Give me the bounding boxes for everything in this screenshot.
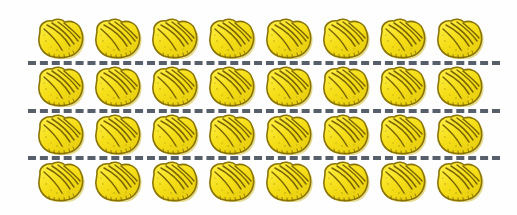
shell-4-5[interactable]	[258, 159, 315, 203]
scallop-shell-icon	[432, 17, 484, 59]
shell-4-7[interactable]	[372, 159, 429, 203]
shell-3-5[interactable]	[258, 112, 315, 156]
scallop-shell-icon	[261, 160, 313, 202]
shell-3-7[interactable]	[372, 112, 429, 156]
divider-between-group-3-and-4	[28, 156, 500, 160]
scallop-shell-icon	[204, 113, 256, 155]
shell-array-grid	[0, 0, 517, 215]
shell-row-4	[0, 159, 517, 203]
shell-2-3[interactable]	[144, 64, 201, 108]
shell-1-3[interactable]	[144, 16, 201, 60]
scallop-shell-icon	[147, 17, 199, 59]
shell-4-2[interactable]	[87, 159, 144, 203]
scallop-shell-icon	[90, 65, 142, 107]
shell-3-4[interactable]	[201, 112, 258, 156]
scallop-shell-icon	[261, 17, 313, 59]
shell-row-1	[0, 16, 517, 60]
shell-1-5[interactable]	[258, 16, 315, 60]
shell-1-8[interactable]	[429, 16, 486, 60]
scallop-shell-icon	[33, 160, 85, 202]
scallop-shell-icon	[375, 17, 427, 59]
scallop-shell-icon	[147, 160, 199, 202]
shell-3-2[interactable]	[87, 112, 144, 156]
scallop-shell-icon	[204, 65, 256, 107]
scallop-shell-icon	[33, 65, 85, 107]
scallop-shell-icon	[204, 160, 256, 202]
shell-2-1[interactable]	[30, 64, 87, 108]
scallop-shell-icon	[33, 17, 85, 59]
scallop-shell-icon	[432, 65, 484, 107]
shell-4-8[interactable]	[429, 159, 486, 203]
scallop-shell-icon	[147, 65, 199, 107]
scallop-shell-icon	[90, 113, 142, 155]
scallop-shell-icon	[318, 160, 370, 202]
scallop-shell-icon	[375, 160, 427, 202]
scallop-shell-icon	[432, 160, 484, 202]
shell-4-6[interactable]	[315, 159, 372, 203]
divider-between-group-1-and-2	[28, 61, 500, 65]
scallop-shell-icon	[432, 113, 484, 155]
scallop-shell-icon	[261, 65, 313, 107]
shell-1-2[interactable]	[87, 16, 144, 60]
shell-4-3[interactable]	[144, 159, 201, 203]
shell-2-7[interactable]	[372, 64, 429, 108]
shell-1-4[interactable]	[201, 16, 258, 60]
scallop-shell-icon	[375, 65, 427, 107]
figure-canvas	[0, 0, 517, 215]
shell-2-6[interactable]	[315, 64, 372, 108]
shell-3-8[interactable]	[429, 112, 486, 156]
shell-2-4[interactable]	[201, 64, 258, 108]
shell-2-5[interactable]	[258, 64, 315, 108]
shell-2-8[interactable]	[429, 64, 486, 108]
shell-3-3[interactable]	[144, 112, 201, 156]
shell-1-6[interactable]	[315, 16, 372, 60]
shell-3-1[interactable]	[30, 112, 87, 156]
scallop-shell-icon	[204, 17, 256, 59]
scallop-shell-icon	[318, 65, 370, 107]
scallop-shell-icon	[33, 113, 85, 155]
shell-4-1[interactable]	[30, 159, 87, 203]
scallop-shell-icon	[318, 113, 370, 155]
scallop-shell-icon	[375, 113, 427, 155]
divider-between-group-2-and-3	[28, 109, 500, 113]
scallop-shell-icon	[318, 17, 370, 59]
shell-2-2[interactable]	[87, 64, 144, 108]
scallop-shell-icon	[90, 17, 142, 59]
shell-1-1[interactable]	[30, 16, 87, 60]
shell-1-7[interactable]	[372, 16, 429, 60]
shell-row-2	[0, 64, 517, 108]
scallop-shell-icon	[261, 113, 313, 155]
shell-3-6[interactable]	[315, 112, 372, 156]
scallop-shell-icon	[147, 113, 199, 155]
scallop-shell-icon	[90, 160, 142, 202]
shell-row-3	[0, 112, 517, 156]
shell-4-4[interactable]	[201, 159, 258, 203]
